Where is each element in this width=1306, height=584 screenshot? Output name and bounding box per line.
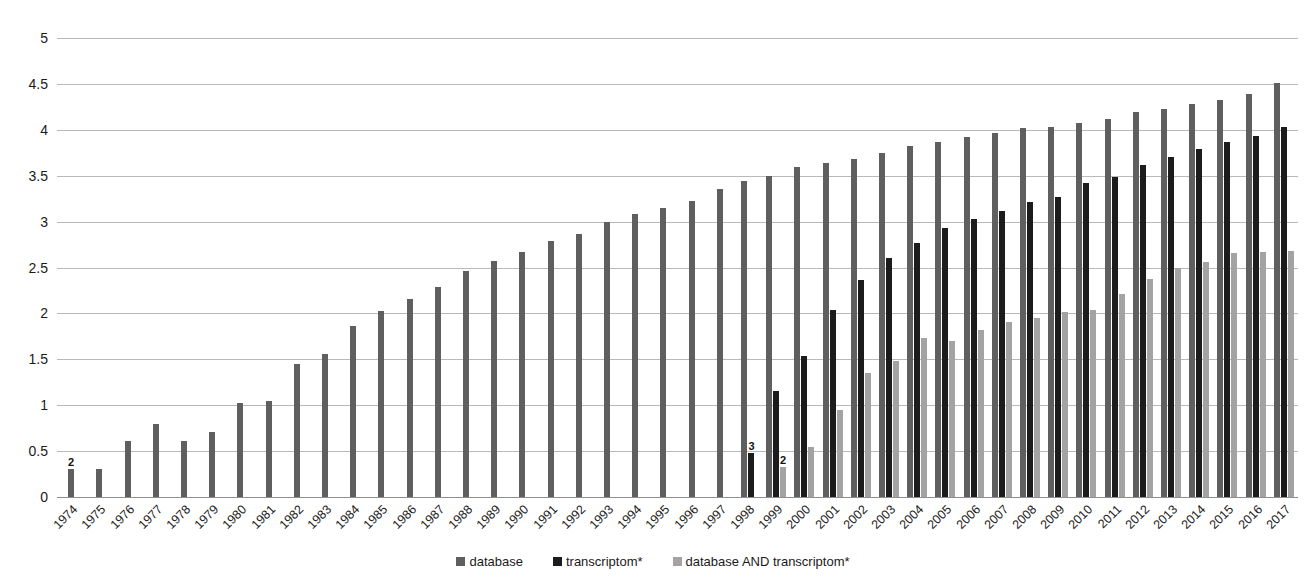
bar bbox=[576, 234, 582, 497]
bar bbox=[1168, 157, 1174, 497]
y-axis-tick-label: 2 bbox=[40, 306, 48, 320]
bar-group bbox=[1242, 38, 1270, 497]
bar bbox=[294, 364, 300, 497]
bar bbox=[893, 361, 899, 497]
bar bbox=[1147, 279, 1153, 497]
bar bbox=[1231, 253, 1237, 497]
bar-chart: 54.543.532.521.510.50 232 19741975197619… bbox=[0, 0, 1306, 584]
bar bbox=[851, 159, 857, 497]
bar-group bbox=[818, 38, 846, 497]
bar bbox=[1083, 183, 1089, 497]
bar bbox=[1062, 312, 1068, 497]
bar bbox=[660, 208, 666, 497]
bar-groups: 232 bbox=[57, 38, 1298, 497]
bar bbox=[548, 241, 554, 497]
bar-group bbox=[931, 38, 959, 497]
bar bbox=[463, 271, 469, 497]
bar bbox=[1246, 94, 1252, 497]
y-axis-tick-label: 4 bbox=[40, 123, 48, 137]
bar bbox=[1119, 294, 1125, 497]
bar bbox=[964, 137, 970, 497]
bar-group bbox=[677, 38, 705, 497]
bar bbox=[766, 176, 772, 497]
bar bbox=[181, 441, 187, 497]
bar-group bbox=[1072, 38, 1100, 497]
bar-group: 3 bbox=[734, 38, 762, 497]
bar-group bbox=[1157, 38, 1185, 497]
bar-data-label: 3 bbox=[748, 441, 754, 452]
bar bbox=[1253, 136, 1259, 497]
bar-group bbox=[480, 38, 508, 497]
bar bbox=[801, 356, 807, 497]
bar-group bbox=[649, 38, 677, 497]
bar bbox=[1112, 177, 1118, 497]
bar bbox=[1006, 322, 1012, 497]
legend-item[interactable]: database bbox=[456, 554, 523, 569]
bar bbox=[1133, 112, 1139, 497]
bar bbox=[435, 287, 441, 497]
bar bbox=[992, 133, 998, 497]
bar bbox=[519, 252, 525, 497]
bar bbox=[1274, 83, 1280, 497]
bar-group bbox=[903, 38, 931, 497]
bar bbox=[1217, 100, 1223, 497]
x-axis-tick-label: 1974 bbox=[51, 503, 80, 532]
bar-group bbox=[424, 38, 452, 497]
bar bbox=[1055, 197, 1061, 497]
bar bbox=[378, 311, 384, 497]
bar-group bbox=[1101, 38, 1129, 497]
legend-label: database AND transcriptom* bbox=[686, 554, 850, 569]
bar-group bbox=[508, 38, 536, 497]
x-axis: 1974197519761977197819791980198119821983… bbox=[57, 497, 1298, 549]
y-axis-tick-label: 4.5 bbox=[29, 77, 48, 91]
y-axis-tick-label: 3.5 bbox=[29, 169, 48, 183]
bar bbox=[741, 181, 747, 497]
bar-group bbox=[1129, 38, 1157, 497]
bar bbox=[1161, 109, 1167, 497]
bar-group bbox=[565, 38, 593, 497]
chart-legend: databasetranscriptom*database AND transc… bbox=[0, 554, 1306, 569]
bar bbox=[1288, 251, 1294, 497]
bar: 2 bbox=[68, 469, 74, 497]
bar bbox=[604, 222, 610, 497]
bar bbox=[1260, 252, 1266, 497]
bar bbox=[1196, 149, 1202, 497]
bar-group bbox=[988, 38, 1016, 497]
bar bbox=[125, 441, 131, 497]
bar bbox=[1034, 318, 1040, 497]
bar-group bbox=[113, 38, 141, 497]
plot-area: 232 bbox=[57, 38, 1298, 497]
legend-item[interactable]: database AND transcriptom* bbox=[673, 554, 850, 569]
bar bbox=[350, 326, 356, 497]
bar bbox=[1105, 119, 1111, 497]
bar-group bbox=[536, 38, 564, 497]
y-axis-tick-label: 1.5 bbox=[29, 352, 48, 366]
bar-group bbox=[395, 38, 423, 497]
bar bbox=[865, 373, 871, 497]
bar-group bbox=[621, 38, 649, 497]
bar bbox=[209, 432, 215, 497]
bar-group bbox=[875, 38, 903, 497]
bar bbox=[858, 280, 864, 497]
bar bbox=[794, 167, 800, 497]
bar bbox=[1027, 202, 1033, 497]
bar bbox=[1224, 142, 1230, 497]
bar bbox=[407, 299, 413, 497]
bar bbox=[322, 354, 328, 497]
bar bbox=[949, 341, 955, 497]
legend-label: database bbox=[469, 554, 523, 569]
bar-data-label: 2 bbox=[68, 457, 74, 468]
bar-group: 2 bbox=[762, 38, 790, 497]
bar-group bbox=[960, 38, 988, 497]
bar bbox=[999, 211, 1005, 497]
bar bbox=[1281, 127, 1287, 497]
bar bbox=[153, 424, 159, 497]
legend-item[interactable]: transcriptom* bbox=[553, 554, 643, 569]
bar-group bbox=[1044, 38, 1072, 497]
legend-label: transcriptom* bbox=[566, 554, 643, 569]
bar bbox=[879, 153, 885, 497]
bar-group bbox=[85, 38, 113, 497]
bar bbox=[266, 401, 272, 497]
bar-group: 2 bbox=[57, 38, 85, 497]
bar bbox=[907, 146, 913, 497]
